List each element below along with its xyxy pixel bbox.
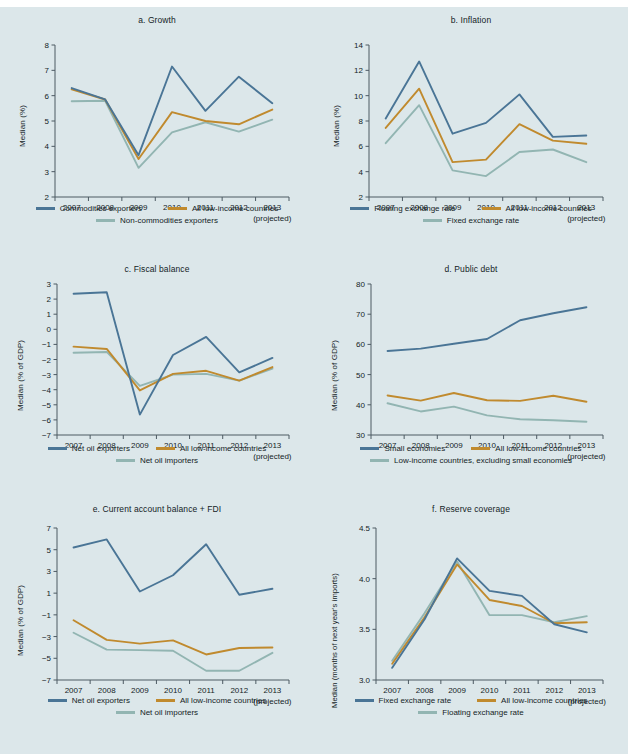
legend-item-2[interactable]: All low-income countries bbox=[156, 444, 266, 453]
legend-a: Commodities exportersAll low-income coun… bbox=[0, 204, 314, 228]
legend-swatch-icon bbox=[156, 447, 175, 450]
legend-item-2[interactable]: All low-income countries bbox=[168, 204, 278, 213]
legend-row-2: Fixed exchange rate bbox=[314, 216, 628, 225]
legend-row-1: Floating exchange rateAll low-income cou… bbox=[314, 204, 628, 213]
legend-item-1[interactable]: Fixed exchange rate bbox=[355, 696, 452, 705]
legend-swatch-icon bbox=[418, 711, 437, 714]
legend-swatch-icon bbox=[482, 207, 501, 210]
legend-label: Fixed exchange rate bbox=[379, 696, 452, 705]
legend-d: Small economiesAll low-income countriesL… bbox=[314, 444, 628, 468]
legend-item-3[interactable]: Fixed exchange rate bbox=[423, 216, 520, 225]
legend-label: Floating exchange rate bbox=[374, 204, 455, 213]
legend-item-2[interactable]: All low-income countries bbox=[482, 204, 592, 213]
legend-row-1: Net oil exportersAll low-income countrie… bbox=[0, 696, 314, 705]
chart-panel-d: d. Public debtMedian (% of GDP)304050607… bbox=[314, 256, 628, 496]
legend-swatch-icon bbox=[156, 699, 175, 702]
legend-label: Low-income countries, excluding small ec… bbox=[394, 456, 572, 465]
legend-row-2: Floating exchange rate bbox=[314, 708, 628, 717]
legend-item-1[interactable]: Commodities exporters bbox=[36, 204, 142, 213]
legend-item-3[interactable]: Non-commodities exporters bbox=[96, 216, 218, 225]
legend-label: All low-income countries bbox=[180, 444, 266, 453]
x-tick-label-2012: 2012 bbox=[545, 686, 563, 695]
chart-panel-f: f. Reserve coverageMedian (months of nex… bbox=[314, 496, 628, 754]
x-tick-label-2008: 2008 bbox=[98, 686, 116, 695]
legend-row-2: Net oil importers bbox=[0, 708, 314, 717]
x-tick-label-2011: 2011 bbox=[198, 686, 215, 695]
legend-row-2: Low-income countries, excluding small ec… bbox=[314, 456, 628, 465]
legend-swatch-icon bbox=[471, 447, 490, 450]
legend-label: Commodities exporters bbox=[60, 204, 142, 213]
legend-item-3[interactable]: Low-income countries, excluding small ec… bbox=[370, 456, 572, 465]
legend-row-1: Commodities exportersAll low-income coun… bbox=[0, 204, 314, 213]
chart-panel-b: b. InflationMedian (%)246810121420072008… bbox=[314, 7, 628, 256]
legend-swatch-icon bbox=[168, 207, 187, 210]
legend-label: Small economies bbox=[384, 444, 445, 453]
legend-label: Fixed exchange rate bbox=[447, 216, 520, 225]
legend-swatch-icon bbox=[355, 699, 374, 702]
legend-label: Net oil importers bbox=[140, 456, 198, 465]
legend-swatch-icon bbox=[48, 699, 67, 702]
legend-item-1[interactable]: Net oil exporters bbox=[48, 696, 130, 705]
legend-swatch-icon bbox=[360, 447, 379, 450]
x-tick-label-2012: 2012 bbox=[230, 686, 248, 695]
x-tick-label-2011: 2011 bbox=[513, 686, 530, 695]
legend-item-1[interactable]: Floating exchange rate bbox=[350, 204, 455, 213]
x-tick-label-2009: 2009 bbox=[448, 686, 466, 695]
legend-row-2: Net oil importers bbox=[0, 456, 314, 465]
legend-swatch-icon bbox=[36, 207, 55, 210]
legend-label: All low-income countries bbox=[180, 696, 266, 705]
legend-label: Floating exchange rate bbox=[442, 708, 523, 717]
x-tick-label-2010: 2010 bbox=[481, 686, 499, 695]
legend-c: Net oil exportersAll low-income countrie… bbox=[0, 444, 314, 468]
x-tick-label-2013: 2013 bbox=[578, 686, 596, 695]
legend-swatch-icon bbox=[477, 699, 496, 702]
x-tick-label-2007: 2007 bbox=[383, 686, 401, 695]
legend-item-2[interactable]: All low-income countries bbox=[156, 696, 266, 705]
legend-swatch-icon bbox=[48, 447, 67, 450]
legend-label: Net oil importers bbox=[140, 708, 198, 717]
legend-item-3[interactable]: Net oil importers bbox=[116, 708, 198, 717]
figure-canvas: a. GrowthMedian (%)234567820072008200920… bbox=[0, 7, 628, 754]
legend-label: Net oil exporters bbox=[72, 696, 130, 705]
legend-label: All low-income countries bbox=[192, 204, 278, 213]
chart-panel-e: e. Current account balance + FDIMedian (… bbox=[0, 496, 314, 754]
legend-row-1: Fixed exchange rateAll low-income countr… bbox=[314, 696, 628, 705]
x-tick-label-2013: 2013 bbox=[264, 686, 282, 695]
legend-row-1: Net oil exportersAll low-income countrie… bbox=[0, 444, 314, 453]
x-tick-label-2009: 2009 bbox=[131, 686, 149, 695]
x-tick-label-2008: 2008 bbox=[416, 686, 434, 695]
chart-panel-c: c. Fiscal balanceMedian (% of GDP)−7−6−5… bbox=[0, 256, 314, 496]
legend-label: All low-income countries bbox=[506, 204, 592, 213]
legend-label: Non-commodities exporters bbox=[120, 216, 218, 225]
legend-e: Net oil exportersAll low-income countrie… bbox=[0, 696, 314, 720]
legend-row-1: Small economiesAll low-income countries bbox=[314, 444, 628, 453]
legend-item-3[interactable]: Net oil importers bbox=[116, 456, 198, 465]
legend-swatch-icon bbox=[96, 219, 115, 222]
legend-item-2[interactable]: All low-income countries bbox=[477, 696, 587, 705]
legend-swatch-icon bbox=[370, 459, 389, 462]
legend-item-2[interactable]: All low-income countries bbox=[471, 444, 581, 453]
legend-item-1[interactable]: Small economies bbox=[360, 444, 445, 453]
panel-grid: a. GrowthMedian (%)234567820072008200920… bbox=[0, 7, 628, 754]
legend-swatch-icon bbox=[350, 207, 369, 210]
legend-label: All low-income countries bbox=[501, 696, 587, 705]
legend-f: Fixed exchange rateAll low-income countr… bbox=[314, 696, 628, 720]
legend-label: All low-income countries bbox=[495, 444, 581, 453]
legend-swatch-icon bbox=[116, 459, 135, 462]
chart-panel-a: a. GrowthMedian (%)234567820072008200920… bbox=[0, 7, 314, 256]
legend-b: Floating exchange rateAll low-income cou… bbox=[314, 204, 628, 228]
legend-label: Net oil exporters bbox=[72, 444, 130, 453]
legend-item-1[interactable]: Net oil exporters bbox=[48, 444, 130, 453]
x-tick-label-2010: 2010 bbox=[164, 686, 182, 695]
legend-swatch-icon bbox=[116, 711, 135, 714]
legend-item-3[interactable]: Floating exchange rate bbox=[418, 708, 523, 717]
legend-swatch-icon bbox=[423, 219, 442, 222]
legend-row-2: Non-commodities exporters bbox=[0, 216, 314, 225]
x-tick-label-2007: 2007 bbox=[65, 686, 83, 695]
